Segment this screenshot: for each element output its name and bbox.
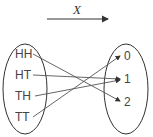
codomain-item-0: 0	[124, 49, 131, 63]
domain-item-hh: HH	[15, 47, 32, 61]
function-arrow: X	[47, 2, 108, 19]
domain-item-th: TH	[15, 89, 31, 103]
domain-item-tt: TT	[15, 110, 30, 124]
mapping-arrow-th-1	[35, 80, 120, 96]
mapping-diagram: X HH HT TH TT 0 1 2	[0, 0, 153, 137]
codomain-item-1: 1	[124, 72, 131, 86]
domain-item-ht: HT	[15, 68, 32, 82]
mapping-arrow-tt-0	[33, 56, 120, 117]
function-label: X	[72, 2, 82, 17]
codomain-item-2: 2	[124, 95, 131, 109]
